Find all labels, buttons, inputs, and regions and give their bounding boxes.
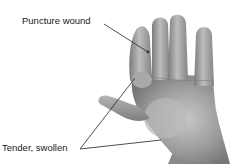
swollen-area	[144, 98, 188, 138]
label-puncture-wound: Puncture wound	[22, 16, 91, 26]
label-tender-swollen: Tender, swollen	[2, 143, 67, 153]
leader-line-tender-lower	[80, 140, 161, 149]
middle-finger	[152, 17, 170, 80]
ring-finger	[168, 15, 188, 80]
little-finger	[194, 27, 214, 86]
